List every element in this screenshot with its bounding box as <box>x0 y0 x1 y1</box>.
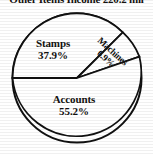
pie-label-stamps-name: Stamps <box>24 37 82 49</box>
pie-chart-screenshot: Other Items Income 220.2 mil Stamps 37.9… <box>0 0 153 154</box>
pie-label-stamps: Stamps 37.9% <box>24 37 82 61</box>
pie-label-accounts: Accounts 55.2% <box>41 93 107 117</box>
pie-chart-area <box>0 0 153 154</box>
pie-label-stamps-percent: 37.9% <box>24 49 82 61</box>
pie-label-accounts-name: Accounts <box>41 93 107 105</box>
pie-svg <box>0 0 153 154</box>
pie-label-accounts-percent: 55.2% <box>41 105 107 117</box>
